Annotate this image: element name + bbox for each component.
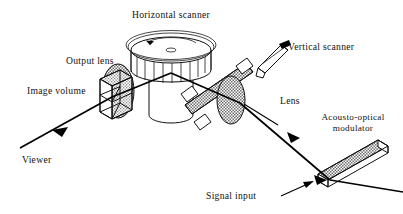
label-viewer: Viewer <box>22 154 52 165</box>
beam-segment-input <box>330 180 403 192</box>
leader-lines <box>244 104 314 196</box>
acousto-optical-modulator <box>318 140 388 187</box>
label-lens: Lens <box>280 95 300 106</box>
label-acousto-optical-line2: modulator <box>333 123 373 133</box>
leader-arrow-signal-input <box>303 181 314 188</box>
label-vertical-scanner: Vertical scanner <box>288 41 355 52</box>
label-output-lens: Output lens <box>66 55 114 66</box>
label-signal-input: Signal input <box>206 190 256 201</box>
optical-scanner-diagram: Horizontal scanner Output lens Image vol… <box>0 0 403 214</box>
vertical-scanner <box>256 40 291 78</box>
scanner-top-disc <box>126 31 216 64</box>
beam-segment-to-viewer <box>20 97 112 148</box>
beam-segment-modulator-to-lens <box>240 103 330 180</box>
label-acousto-optical-line1: Acousto-optical <box>321 112 384 122</box>
horizontal-scanner <box>126 31 216 124</box>
label-horizontal-scanner: Horizontal scanner <box>132 9 211 20</box>
label-image-volume: Image volume <box>27 85 86 96</box>
beam-arrow-to-lens <box>287 132 300 143</box>
diagram-canvas: Horizontal scanner Output lens Image vol… <box>0 0 403 214</box>
